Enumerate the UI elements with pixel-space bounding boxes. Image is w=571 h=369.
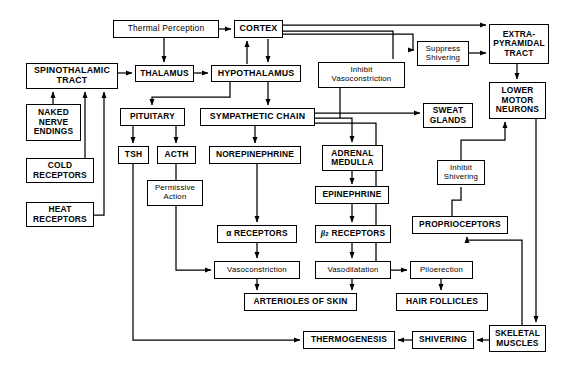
node-inhibit_shivering: Inhibit Shivering [437, 160, 485, 185]
node-epinephrine: EPINEPHRINE [315, 186, 389, 204]
node-norepinephrine: NOREPINEPHRINE [209, 146, 301, 164]
node-sweat_glands: SWEAT GLANDS [423, 103, 473, 128]
edge-hypothalamus-pituitary [152, 82, 230, 105]
edge-heatreceptors-spinothalamic [94, 92, 104, 215]
node-alpha_receptors: α RECEPTORS [217, 225, 297, 243]
node-arterioles_of_skin: ARTERIOLES OF SKIN [244, 293, 357, 311]
node-permissive_action: Permissive Action [147, 180, 203, 206]
edge-skeletalmuscles-proprioceptors [467, 237, 522, 325]
node-skeletal_muscles: SKELETAL MUSCLES [489, 325, 546, 352]
node-proprioceptors: PROPRIOCEPTORS [412, 216, 508, 234]
edge-permissiveaction-vasoconstriction [176, 206, 211, 270]
node-hair_follicles: HAIR FOLLICLES [396, 293, 488, 311]
edge-cortex-suppressshivering [283, 34, 414, 50]
node-piloerection: Piloerection [410, 261, 473, 279]
node-cold_receptors: COLD RECEPTORS [26, 158, 94, 183]
node-beta2_receptors: β2 RECEPTORS [315, 225, 391, 243]
edge-proprioceptors-inhibitshivering [452, 187, 461, 216]
node-heat_receptors: HEAT RECEPTORS [26, 202, 94, 227]
node-lower_motor_neurons: LOWER MOTOR NEURONS [489, 82, 546, 119]
node-thalamus: THALAMUS [135, 65, 194, 82]
node-shivering: SHIVERING [412, 331, 474, 349]
node-cortex: CORTEX [234, 20, 283, 38]
edge-sympathetic-adrenalmedulla [315, 118, 352, 142]
node-sympathetic_chain: SYMPATHETIC CHAIN [200, 108, 315, 126]
node-adrenal_medulla: ADRENAL MEDULLA [322, 145, 383, 171]
node-tsh: TSH [118, 146, 149, 164]
node-spinothalamic_tract: SPINOTHALAMIC TRACT [26, 63, 118, 89]
node-suppress_shivering: Suppress Shivering [417, 41, 469, 66]
node-vasodilatation: Vasodilatation [315, 261, 391, 279]
flowchart-connectors [0, 0, 571, 369]
node-extrapyramidal_tract: EXTRA- PYRAMIDAL TRACT [489, 24, 549, 64]
node-inhibit_vasoconstriction: Inhibit Vasoconstriction [318, 62, 405, 88]
node-pituitary: PITUITARY [120, 108, 185, 126]
node-naked_nerve_endings: NAKED NERVE ENDINGS [26, 104, 81, 141]
node-vasoconstriction: Vasoconstriction [214, 261, 300, 279]
node-thermogenesis: THERMOGENESIS [303, 331, 395, 349]
node-hypothalamus: HYPOTHALAMUS [211, 65, 301, 82]
diagram-canvas: Thermal PerceptionCORTEXEXTRA- PYRAMIDAL… [0, 0, 571, 369]
node-acth: ACTH [157, 146, 196, 164]
edge-cortex-inhibitvaso-top [283, 31, 393, 59]
node-thermal_perception: Thermal Perception [113, 20, 219, 38]
